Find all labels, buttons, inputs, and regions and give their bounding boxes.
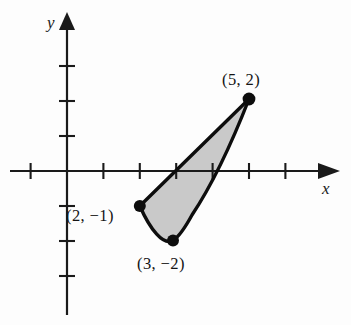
y-axis-label: y [47, 14, 55, 31]
point-marker-a [134, 200, 146, 212]
point-marker-b [167, 235, 179, 247]
point-label-3-neg2: (3, −2) [137, 256, 185, 273]
x-axis-arrowhead [318, 163, 340, 179]
figure-container: y x (2, −1) (3, −2) (5, 2) [0, 0, 351, 325]
coordinate-plot [0, 0, 351, 325]
point-label-5-2: (5, 2) [222, 72, 260, 89]
point-label-2-neg1: (2, −1) [66, 208, 114, 225]
y-axis-arrowhead [59, 12, 75, 30]
point-marker-c [243, 93, 256, 106]
x-axis-label: x [322, 180, 330, 197]
